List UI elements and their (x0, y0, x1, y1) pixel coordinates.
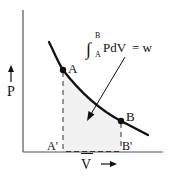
x-axis-label: V (81, 157, 91, 172)
equation-equals-w: = w (132, 40, 153, 55)
point-a-prime-label: A' (47, 139, 58, 153)
point-a-marker (60, 67, 66, 73)
v-axis-arrow-icon (110, 161, 117, 167)
point-b-prime-label: B' (122, 139, 132, 153)
point-a-label: A (68, 61, 78, 76)
integral-lower-limit: A (95, 50, 101, 59)
equation-pointer-line (91, 57, 125, 114)
integral-upper-limit: B (95, 31, 100, 40)
y-axis-label: P (7, 84, 15, 99)
point-b-marker (118, 118, 124, 124)
integral-sign: ∫ (85, 39, 92, 60)
pv-diagram: P V A B A' B' ∫ B A PdV = w (0, 0, 171, 181)
p-axis-arrow-icon (8, 65, 14, 72)
point-b-label: B (126, 109, 135, 124)
integrand: PdV (103, 40, 127, 55)
